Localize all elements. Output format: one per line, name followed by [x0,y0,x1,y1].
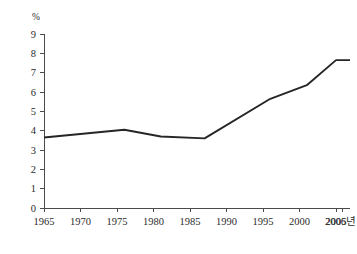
x-tick-label: 1985 [180,216,201,227]
x-tick-label: 2000 [289,216,310,227]
x-tick-label: 1980 [143,216,164,227]
x-tick-label: 1990 [216,216,237,227]
x-tick-label: 1965 [34,216,55,227]
line-chart: 0123456789 19651970197519801985199019952… [0,0,357,254]
x-axis-tick-labels: 1965197019751980198519901995200020052006… [34,216,357,227]
y-tick-label: 1 [31,183,36,194]
y-tick-label: 3 [31,145,36,156]
x-tick-label: 1970 [70,216,91,227]
x-tick-label: 1995 [253,216,274,227]
y-axis-unit-label: % [32,12,40,22]
y-tick-label: 6 [31,87,36,98]
x-tick-label: 1975 [107,216,128,227]
y-tick-label: 7 [31,67,36,78]
y-tick-label: 8 [31,48,36,59]
y-tick-label: 2 [31,164,36,175]
y-tick-label: 0 [31,203,36,214]
y-tick-label: 5 [31,106,36,117]
chart-canvas: 0123456789 19651970197519801985199019952… [0,0,357,254]
y-tick-label: 9 [31,29,36,40]
x-tick-label: 2006년 [325,216,356,227]
y-tick-label: 4 [31,125,37,136]
